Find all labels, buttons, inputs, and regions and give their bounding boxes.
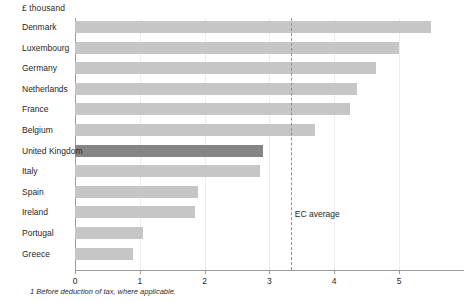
category-label-luxembourg: Luxembourg [0, 42, 70, 54]
category-label-text: Italy [22, 166, 38, 176]
category-label-text: Denmark [22, 22, 56, 32]
category-label-united-kingdom: United Kingdom [0, 145, 70, 157]
x-tick-label-0: 0 [73, 276, 78, 286]
bar-fill [75, 248, 133, 260]
x-tick-label-5: 5 [397, 276, 402, 286]
bar-denmark [75, 21, 431, 33]
ec-average-line [291, 18, 292, 270]
bar-portugal [75, 227, 143, 239]
category-label-netherlands: Netherlands [0, 83, 70, 95]
category-label-text: Netherlands [22, 84, 68, 94]
x-tick-mark-3 [269, 270, 270, 274]
category-label-text: Ireland [22, 207, 48, 217]
bar-spain [75, 186, 198, 198]
bar-fill [75, 83, 357, 95]
plot-area: EC average [75, 18, 464, 270]
bar-fill [75, 42, 399, 54]
bar-greece [75, 248, 133, 260]
bar-france [75, 103, 350, 115]
bar-chart: £ thousand EC average 012345 DenmarkLuxe… [0, 0, 464, 302]
bar-fill [75, 186, 198, 198]
category-label-ireland: Ireland [0, 206, 70, 218]
bar-netherlands [75, 83, 357, 95]
gridline-3 [269, 18, 270, 270]
category-label-italy: Italy [0, 165, 70, 177]
x-tick-mark-5 [399, 270, 400, 274]
bar-fill [75, 145, 263, 157]
bar-fill [75, 21, 431, 33]
x-tick-label-3: 3 [267, 276, 272, 286]
bar-fill [75, 62, 376, 74]
category-label-text: Luxembourg [22, 43, 69, 53]
category-label-denmark: Denmark [0, 21, 70, 33]
category-label-belgium: Belgium [0, 124, 70, 136]
gridline-5 [399, 18, 400, 270]
x-tick-label-2: 2 [202, 276, 207, 286]
x-tick-mark-4 [334, 270, 335, 274]
category-label-text: United Kingdom [22, 146, 82, 156]
bar-fill [75, 103, 350, 115]
gridline-4 [334, 18, 335, 270]
ec-average-label: EC average [295, 209, 340, 219]
x-tick-mark-0 [75, 270, 76, 274]
bar-united-kingdom [75, 145, 263, 157]
category-label-france: France [0, 103, 70, 115]
x-tick-label-1: 1 [137, 276, 142, 286]
x-tick-mark-2 [205, 270, 206, 274]
bar-fill [75, 227, 143, 239]
bar-italy [75, 165, 260, 177]
bar-fill [75, 124, 315, 136]
bar-germany [75, 62, 376, 74]
bar-fill [75, 165, 260, 177]
bar-fill [75, 206, 195, 218]
x-tick-mark-1 [140, 270, 141, 274]
category-label-text: Germany [22, 63, 57, 73]
footnote: 1 Before deduction of tax, where applica… [30, 287, 176, 296]
x-tick-label-4: 4 [332, 276, 337, 286]
bar-luxembourg [75, 42, 399, 54]
category-label-text: Belgium [22, 125, 53, 135]
category-label-germany: Germany [0, 62, 70, 74]
bar-belgium [75, 124, 315, 136]
category-label-text: France [22, 104, 48, 114]
category-label-spain: Spain [0, 186, 70, 198]
bar-ireland [75, 206, 195, 218]
axis-title-unit: £ thousand [22, 3, 65, 13]
category-label-text: Spain [22, 187, 44, 197]
category-label-text: Portugal [22, 228, 54, 238]
category-label-portugal: Portugal [0, 227, 70, 239]
category-label-greece: Greece [0, 248, 70, 260]
category-label-text: Greece [22, 249, 50, 259]
